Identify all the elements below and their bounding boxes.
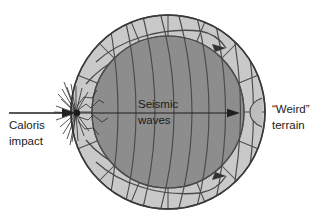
label-caloris-impact: Caloris impact xyxy=(9,119,45,147)
impact-arrow xyxy=(9,109,75,118)
seismic-waves-line2: waves xyxy=(137,114,171,126)
caloris-impact-line1: Caloris xyxy=(9,119,45,131)
figure-canvas: Caloris impact Seismic waves “Weird” ter… xyxy=(0,0,318,224)
mantle-radial-lines xyxy=(68,12,268,212)
planet-cross-section xyxy=(68,12,268,212)
label-weird-terrain: “Weird” terrain xyxy=(272,103,310,131)
caloris-impact-line2: impact xyxy=(9,135,44,147)
seismic-waves-line1: Seismic xyxy=(138,98,179,110)
weird-terrain-line1: “Weird” xyxy=(272,103,310,115)
weird-terrain-line2: terrain xyxy=(272,119,305,131)
